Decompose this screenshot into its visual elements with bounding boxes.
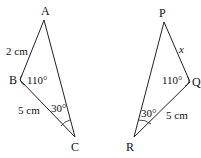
angle-q-label: 110° <box>162 74 183 86</box>
side-pq-label: x <box>178 43 184 55</box>
angle-r-label: 30° <box>141 107 156 119</box>
vertex-a-label: A <box>41 4 50 18</box>
side-qr-label: 5 cm <box>166 109 188 121</box>
vertex-r-label: R <box>126 140 134 154</box>
vertex-b-label: B <box>9 73 17 87</box>
triangle-abc: A B C 2 cm 5 cm 110° 30° <box>6 4 79 154</box>
angle-c-arc <box>61 120 70 126</box>
vertex-q-label: Q <box>192 75 201 89</box>
triangle-pqr: P Q R x 5 cm 110° 30° <box>126 6 201 154</box>
side-ab-label: 2 cm <box>6 45 28 57</box>
similar-triangles-diagram: A B C 2 cm 5 cm 110° 30° P Q R x 5 cm 11… <box>0 0 201 158</box>
angle-b-arc <box>20 75 25 85</box>
vertex-p-label: P <box>159 6 166 20</box>
side-bc-label: 5 cm <box>18 104 40 116</box>
vertex-c-label: C <box>71 140 79 154</box>
angle-b-label: 110° <box>27 74 48 86</box>
angle-q-arc <box>185 76 189 86</box>
angle-c-label: 30° <box>51 102 66 114</box>
